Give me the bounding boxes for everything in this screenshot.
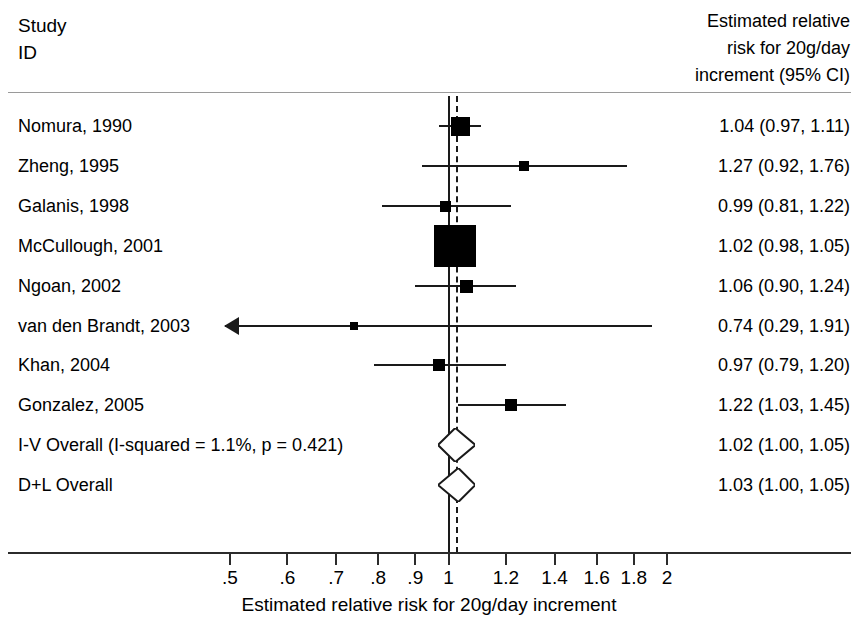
axis-tick	[666, 554, 668, 565]
axis-tick	[596, 554, 598, 565]
estimate-column-header: Estimated relative risk for 20g/day incr…	[695, 8, 850, 89]
estimate-value: 0.74 (0.29, 1.91)	[718, 317, 850, 335]
axis-tick-label: .8	[370, 567, 386, 589]
axis-tick	[554, 554, 556, 565]
axis-tick-label: .9	[407, 567, 423, 589]
study-weight-marker	[433, 359, 445, 371]
study-label: Galanis, 1998	[18, 197, 129, 215]
study-label: I-V Overall (I-squared = 1.1%, p = 0.421…	[18, 436, 343, 454]
summary-diamond	[438, 428, 475, 462]
estimate-value: 1.02 (0.98, 1.05)	[718, 237, 850, 255]
ci-clipped-arrow-icon	[224, 317, 239, 335]
axis-tick-label: .6	[280, 567, 296, 589]
axis-tick	[286, 554, 288, 565]
axis-tick-label: 1	[443, 567, 454, 589]
axis-tick	[448, 554, 450, 565]
study-label: van den Brandt, 2003	[18, 317, 190, 335]
axis-tick-label: 1.4	[541, 567, 567, 589]
estimate-value: 0.97 (0.79, 1.20)	[718, 356, 850, 374]
study-label: Khan, 2004	[18, 356, 110, 374]
study-label: D+L Overall	[18, 476, 113, 494]
study-weight-marker	[434, 225, 476, 267]
estimate-value: 1.06 (0.90, 1.24)	[718, 277, 850, 295]
study-weight-marker	[519, 161, 529, 171]
axis-tick	[229, 554, 231, 565]
study-weight-marker	[505, 399, 517, 411]
axis-tick-label: 1.6	[583, 567, 609, 589]
estimate-value: 1.22 (1.03, 1.45)	[718, 396, 850, 414]
estimate-value: 0.99 (0.81, 1.22)	[718, 197, 850, 215]
axis-tick	[335, 554, 337, 565]
study-label: Zheng, 1995	[18, 157, 119, 175]
study-weight-marker	[460, 280, 473, 293]
axis-tick	[414, 554, 416, 565]
axis-tick	[633, 554, 635, 565]
estimate-value: 1.27 (0.92, 1.76)	[718, 157, 850, 175]
axis-tick-label: 1.8	[621, 567, 647, 589]
study-label: McCullough, 2001	[18, 237, 163, 255]
study-label: Ngoan, 2002	[18, 277, 121, 295]
x-axis-title: Estimated relative risk for 20g/day incr…	[0, 594, 858, 616]
axis-tick	[377, 554, 379, 565]
axis-tick-label: .5	[222, 567, 238, 589]
header-divider	[8, 92, 851, 93]
confidence-interval-line	[225, 325, 652, 327]
study-column-header: Study ID	[18, 12, 67, 66]
study-label: Gonzalez, 2005	[18, 396, 144, 414]
axis-tick	[505, 554, 507, 565]
estimate-value: 1.04 (0.97, 1.11)	[719, 117, 850, 135]
forest-plot: Study ID Estimated relative risk for 20g…	[0, 0, 858, 625]
study-weight-marker	[440, 201, 451, 212]
estimate-value: 1.02 (1.00, 1.05)	[718, 436, 850, 454]
study-weight-marker	[350, 322, 358, 330]
x-axis-line	[8, 552, 851, 554]
axis-tick-label: .7	[328, 567, 344, 589]
axis-tick-label: 2	[662, 567, 673, 589]
study-label: Nomura, 1990	[18, 117, 132, 135]
estimate-value: 1.03 (1.00, 1.05)	[718, 476, 850, 494]
axis-tick-label: 1.2	[493, 567, 519, 589]
study-weight-marker	[451, 117, 470, 136]
summary-diamond	[438, 468, 475, 502]
